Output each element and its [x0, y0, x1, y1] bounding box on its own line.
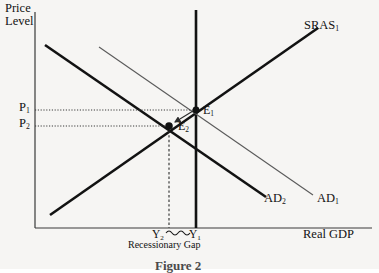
- ad1-curve-label: AD1: [317, 192, 339, 206]
- ad2-label-base: AD: [264, 191, 282, 205]
- equilibrium-label-e2: E2: [178, 120, 189, 134]
- price-tick-p1: P1: [19, 101, 30, 115]
- gap-squiggle: [166, 231, 190, 235]
- equilibrium-label-e1: E1: [203, 104, 214, 118]
- figure-caption: Figure 2: [155, 259, 201, 273]
- y-axis-label: Price Level: [5, 2, 33, 28]
- sras1-label-sub: 1: [335, 24, 339, 33]
- ad1-label-sub: 1: [335, 197, 339, 206]
- p2-base: P: [19, 116, 26, 130]
- equilibrium-point-e2: [165, 122, 173, 130]
- sras1-label-base: SRAS: [304, 18, 335, 32]
- e2-label-sub: 2: [185, 125, 189, 134]
- price-tick-p2: P2: [19, 117, 30, 131]
- p2-sub: 2: [26, 122, 30, 131]
- equilibrium-point-e1: [193, 107, 200, 114]
- y-axis-label-line2: Level: [5, 15, 33, 28]
- x-axis-label: Real GDP: [303, 228, 354, 241]
- p1-sub: 1: [26, 106, 30, 115]
- sras1-curve-label: SRAS1: [304, 19, 339, 33]
- e1-label-sub: 1: [210, 109, 214, 118]
- ad1-curve: [99, 47, 313, 195]
- ad2-curve: [45, 45, 266, 197]
- ad2-label-sub: 2: [282, 197, 286, 206]
- ad2-curve-label: AD2: [264, 192, 286, 206]
- p1-base: P: [19, 100, 26, 114]
- ad1-label-base: AD: [317, 191, 335, 205]
- recessionary-gap-label: Recessionary Gap: [128, 240, 200, 251]
